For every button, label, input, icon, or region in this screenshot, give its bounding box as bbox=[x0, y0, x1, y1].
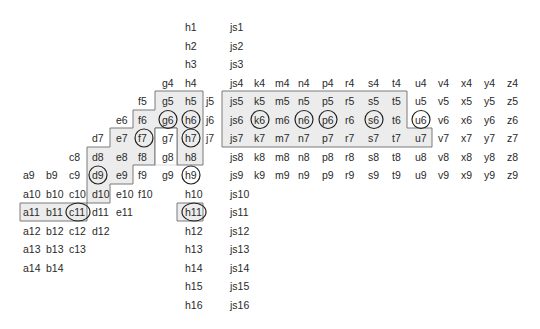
cell-label-f7: f7 bbox=[138, 132, 147, 144]
cell-label-f8: f8 bbox=[138, 151, 147, 163]
cell-label-v9: v9 bbox=[438, 169, 449, 181]
cell-label-b12: b12 bbox=[46, 225, 64, 237]
cell-label-n7: n7 bbox=[298, 132, 310, 144]
cell-label-js7: js7 bbox=[229, 132, 244, 144]
cell-label-k7: k7 bbox=[254, 132, 265, 144]
cell-label-u8: u8 bbox=[415, 151, 427, 163]
cell-label-g5: g5 bbox=[162, 95, 174, 107]
cell-label-h10: h10 bbox=[185, 188, 203, 200]
cell-label-u7: u7 bbox=[415, 132, 427, 144]
cell-label-v6: v6 bbox=[438, 114, 449, 126]
cell-label-u6: u6 bbox=[415, 114, 427, 126]
cell-label-p4: p4 bbox=[322, 77, 334, 89]
cell-label-x9: x9 bbox=[461, 169, 472, 181]
cell-label-s6: s6 bbox=[368, 114, 379, 126]
cell-label-b13: b13 bbox=[46, 243, 64, 255]
cell-label-x8: x8 bbox=[461, 151, 472, 163]
cell-label-js13: js13 bbox=[229, 243, 249, 255]
cell-label-c11: c11 bbox=[69, 206, 85, 218]
cell-label-x4: x4 bbox=[461, 77, 472, 89]
cell-label-js15: js15 bbox=[229, 280, 249, 292]
cell-label-h5: h5 bbox=[185, 95, 197, 107]
cell-label-m9: m9 bbox=[275, 169, 290, 181]
cell-label-t7: t7 bbox=[392, 132, 401, 144]
cell-label-z7: z7 bbox=[507, 132, 518, 144]
cell-label-r5: r5 bbox=[345, 95, 354, 107]
cell-label-z5: z5 bbox=[507, 95, 518, 107]
cell-label-a11: a11 bbox=[23, 206, 40, 218]
cell-label-d10: d10 bbox=[92, 188, 110, 200]
cell-label-h12: h12 bbox=[185, 225, 203, 237]
cell-label-s7: s7 bbox=[368, 132, 379, 144]
cell-label-c9: c9 bbox=[69, 169, 80, 181]
cell-label-js5: js5 bbox=[229, 95, 244, 107]
cell-label-h6: h6 bbox=[185, 114, 197, 126]
cell-label-e8: e8 bbox=[116, 151, 128, 163]
cell-label-z8: z8 bbox=[507, 151, 518, 163]
cell-label-js2: js2 bbox=[229, 40, 244, 52]
cell-label-j6: j6 bbox=[205, 114, 214, 126]
cell-label-x6: x6 bbox=[461, 114, 472, 126]
cell-label-v5: v5 bbox=[438, 95, 449, 107]
cell-label-n8: n8 bbox=[298, 151, 310, 163]
cell-label-n6: n6 bbox=[298, 114, 310, 126]
cell-label-h7: h7 bbox=[185, 132, 197, 144]
cell-label-s9: s9 bbox=[368, 169, 379, 181]
cell-label-c10: c10 bbox=[69, 188, 86, 200]
cell-label-g6: g6 bbox=[162, 114, 174, 126]
cell-label-r6: r6 bbox=[345, 114, 354, 126]
cell-label-y9: y9 bbox=[484, 169, 495, 181]
cell-label-e11: e11 bbox=[116, 206, 133, 218]
cell-label-e6: e6 bbox=[116, 114, 128, 126]
cell-label-h3: h3 bbox=[185, 58, 197, 70]
cell-label-x7: x7 bbox=[461, 132, 472, 144]
cell-label-a12: a12 bbox=[23, 225, 41, 237]
cell-label-js1: js1 bbox=[229, 21, 244, 33]
cell-label-k9: k9 bbox=[254, 169, 265, 181]
cell-label-js12: js12 bbox=[229, 225, 249, 237]
cell-label-r9: r9 bbox=[345, 169, 354, 181]
cell-label-h8: h8 bbox=[185, 151, 197, 163]
grid-label-diagram: a9a10a11a12a13a14b9b10b11b12b13b14c8c9c1… bbox=[0, 0, 540, 329]
cell-label-g9: g9 bbox=[162, 169, 174, 181]
cell-label-s5: s5 bbox=[368, 95, 379, 107]
cell-label-a13: a13 bbox=[23, 243, 41, 255]
cell-label-k6: k6 bbox=[254, 114, 265, 126]
cell-label-f6: f6 bbox=[138, 114, 147, 126]
cell-label-y5: y5 bbox=[484, 95, 495, 107]
cell-label-js3: js3 bbox=[229, 58, 244, 70]
cell-label-e7: e7 bbox=[116, 132, 128, 144]
cell-label-d9: d9 bbox=[92, 169, 104, 181]
cell-label-z9: z9 bbox=[507, 169, 518, 181]
cell-label-h1: h1 bbox=[185, 21, 197, 33]
cell-label-d7: d7 bbox=[92, 132, 104, 144]
cell-label-g4: g4 bbox=[162, 77, 174, 89]
cell-label-r7: r7 bbox=[345, 132, 354, 144]
cell-label-v7: v7 bbox=[438, 132, 449, 144]
cell-label-h16: h16 bbox=[185, 299, 203, 311]
cell-label-js16: js16 bbox=[229, 299, 249, 311]
cell-label-n9: n9 bbox=[298, 169, 310, 181]
cell-label-y4: y4 bbox=[484, 77, 495, 89]
cell-label-c8: c8 bbox=[69, 151, 80, 163]
cell-label-c12: c12 bbox=[69, 225, 86, 237]
cell-label-y6: y6 bbox=[484, 114, 495, 126]
cell-label-b9: b9 bbox=[46, 169, 58, 181]
cell-label-j5: j5 bbox=[205, 95, 214, 107]
cell-label-v4: v4 bbox=[438, 77, 449, 89]
cell-label-d11: d11 bbox=[92, 206, 109, 218]
cell-label-f5: f5 bbox=[138, 95, 147, 107]
cell-label-e9: e9 bbox=[116, 169, 128, 181]
cell-label-m4: m4 bbox=[275, 77, 290, 89]
cell-label-t4: t4 bbox=[392, 77, 401, 89]
cell-label-j7: j7 bbox=[205, 132, 214, 144]
cell-label-a14: a14 bbox=[23, 262, 41, 274]
cell-label-n4: n4 bbox=[298, 77, 310, 89]
cell-label-js9: js9 bbox=[229, 169, 244, 181]
cell-label-h9: h9 bbox=[185, 169, 197, 181]
cell-label-t5: t5 bbox=[392, 95, 401, 107]
cell-label-p7: p7 bbox=[322, 132, 334, 144]
cell-label-b14: b14 bbox=[46, 262, 64, 274]
cell-label-p5: p5 bbox=[322, 95, 334, 107]
cell-label-h11: h11 bbox=[185, 206, 202, 218]
